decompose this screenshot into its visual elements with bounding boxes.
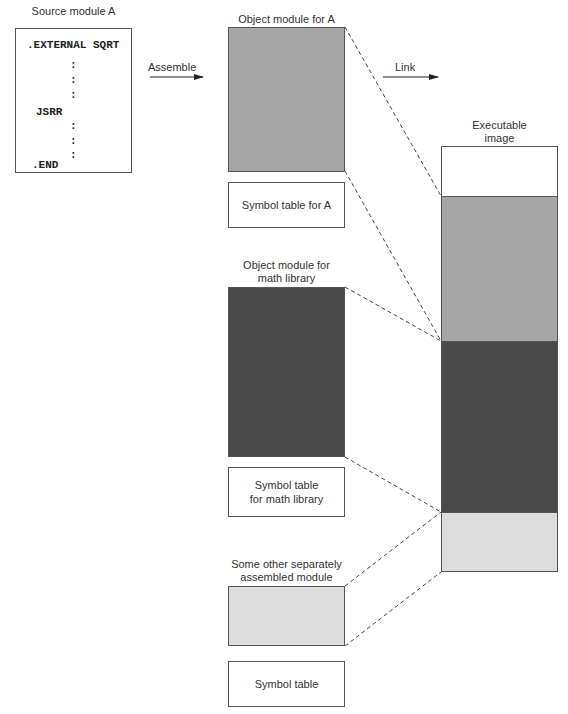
dash-math-bottom <box>345 457 441 512</box>
dash-a-top <box>345 27 441 196</box>
dash-other-bottom <box>345 572 441 646</box>
dash-math-top <box>345 287 441 341</box>
connector-lines <box>0 0 568 714</box>
dash-other-top <box>345 512 441 586</box>
dash-a-bottom <box>345 171 441 341</box>
